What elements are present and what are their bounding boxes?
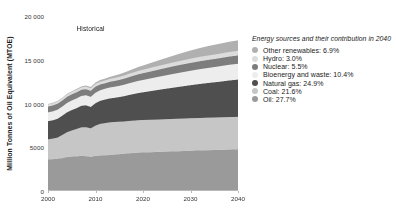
legend-swatch-icon bbox=[252, 96, 258, 102]
x-tick-mark bbox=[143, 191, 144, 193]
x-tick-label: 2030 bbox=[183, 195, 197, 202]
legend-item[interactable]: Nuclear: 5.5% bbox=[252, 63, 394, 70]
legend-swatch-icon bbox=[252, 72, 258, 78]
y-tick-label: 10 000 bbox=[24, 100, 44, 107]
y-tick-label: 15 000 bbox=[24, 56, 44, 63]
legend-item-label: Hydro: 3.0% bbox=[263, 55, 302, 62]
plot-area: 0500010 00015 00020 000 2000201020202030… bbox=[48, 16, 238, 191]
legend-item-label: Oil: 27.7% bbox=[263, 96, 296, 103]
legend-swatch-icon bbox=[252, 88, 258, 94]
legend-item[interactable]: Other renewables: 6.9% bbox=[252, 47, 394, 54]
legend-item[interactable]: Bioenergy and waste: 10.4% bbox=[252, 71, 394, 78]
legend-item[interactable]: Coal: 21.6% bbox=[252, 88, 394, 95]
legend-swatch-icon bbox=[252, 64, 258, 70]
legend-item-label: Nuclear: 5.5% bbox=[263, 63, 308, 70]
legend-item-label: Natural gas: 24.9% bbox=[263, 80, 323, 87]
x-tick-label: 2010 bbox=[88, 195, 102, 202]
legend-item-label: Other renewables: 6.9% bbox=[263, 47, 339, 54]
x-tick-label: 2040 bbox=[231, 195, 245, 202]
x-tick-label: 2000 bbox=[41, 195, 55, 202]
legend-items: Other renewables: 6.9%Hydro: 3.0%Nuclear… bbox=[252, 47, 394, 103]
legend-title: Energy sources and their contribution in… bbox=[252, 34, 394, 44]
x-tick-mark bbox=[48, 191, 49, 193]
legend-swatch-icon bbox=[252, 47, 258, 53]
y-tick-label: 20 000 bbox=[24, 13, 44, 20]
legend-item-label: Bioenergy and waste: 10.4% bbox=[263, 71, 353, 78]
stacked-area-plot bbox=[48, 16, 238, 191]
legend-item-label: Coal: 21.6% bbox=[263, 88, 302, 95]
x-tick-mark bbox=[238, 191, 239, 193]
y-axis-title-text: Million Tonnes of Oil Equivalent (MTOE) bbox=[6, 36, 13, 170]
legend-item[interactable]: Oil: 27.7% bbox=[252, 96, 394, 103]
legend-item[interactable]: Natural gas: 24.9% bbox=[252, 80, 394, 87]
x-tick-mark bbox=[191, 191, 192, 193]
y-axis-title: Million Tonnes of Oil Equivalent (MTOE) bbox=[4, 16, 15, 191]
legend-swatch-icon bbox=[252, 80, 258, 86]
legend-item[interactable]: Hydro: 3.0% bbox=[252, 55, 394, 62]
x-tick-mark bbox=[96, 191, 97, 193]
x-tick-label: 2020 bbox=[136, 195, 150, 202]
y-tick-label: 0 bbox=[40, 188, 44, 195]
historical-annotation: Historical bbox=[77, 25, 105, 32]
y-tick-label: 5000 bbox=[30, 144, 44, 151]
energy-stacked-area-figure: Million Tonnes of Oil Equivalent (MTOE) … bbox=[0, 0, 396, 222]
legend-swatch-icon bbox=[252, 56, 258, 62]
legend: Energy sources and their contribution in… bbox=[252, 34, 394, 104]
